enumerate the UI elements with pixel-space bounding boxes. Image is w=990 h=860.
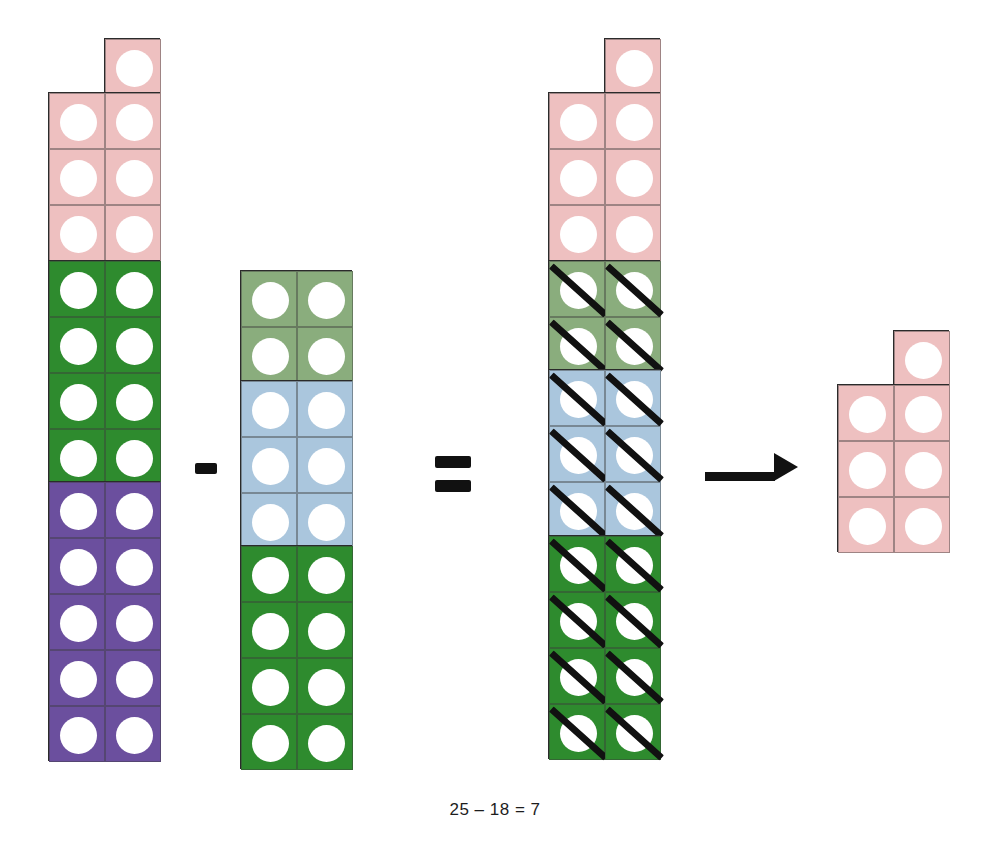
ten-frame-cell [894, 497, 950, 553]
counter-dot [252, 338, 289, 375]
counter-dot [116, 605, 153, 642]
ten-frame-cell [49, 538, 105, 594]
ten-frame-cell [605, 39, 661, 95]
counter-dot [849, 452, 886, 489]
ten-frame-cell [549, 370, 605, 426]
ten-frame-cell [105, 650, 161, 706]
block-outline [548, 369, 660, 537]
block-outline [548, 260, 660, 372]
counter-dot [308, 392, 345, 429]
counter-dot [308, 282, 345, 319]
ten-frame-cell [49, 93, 105, 149]
ten-frame-cell [241, 271, 297, 327]
ten-frame-cell [605, 592, 661, 648]
ten-frame-cell [549, 205, 605, 261]
ten-frame-cell [241, 714, 297, 770]
ten-frame-cell [105, 594, 161, 650]
ten-frame-cell [105, 706, 161, 762]
ten-frame-cell [49, 373, 105, 429]
ten-frame-cell [894, 441, 950, 497]
ten-frame-cell [894, 385, 950, 441]
ten-frame-cell [49, 429, 105, 485]
ten-frame-cell [838, 441, 894, 497]
ten-frame-cell [105, 482, 161, 538]
counter-dot [116, 272, 153, 309]
counter-dot [116, 661, 153, 698]
ten-frame-cell [838, 385, 894, 441]
ten-frame-cell [297, 493, 353, 549]
diagram-canvas: 25 – 18 = 7 [0, 0, 990, 860]
ten-frame-cell [105, 429, 161, 485]
counter-dot [116, 384, 153, 421]
ten-frame-cell [605, 93, 661, 149]
counter-dot [60, 605, 97, 642]
ten-frame-cell [838, 497, 894, 553]
ten-frame-cell [297, 714, 353, 770]
ten-frame-cell [297, 546, 353, 602]
ten-frame-cell [605, 370, 661, 426]
ten-frame-cell [549, 149, 605, 205]
ten-frame-cell [241, 437, 297, 493]
counter-dot [252, 669, 289, 706]
counter-dot [616, 104, 653, 141]
block-outline [48, 92, 160, 260]
block-outline [240, 380, 352, 548]
counter-dot [116, 216, 153, 253]
ten-frame-cell [605, 426, 661, 482]
counter-dot [616, 50, 653, 87]
counter-dot [308, 504, 345, 541]
notch-cell-outline [893, 330, 949, 386]
ten-frame-cell [297, 381, 353, 437]
counter-dot [116, 440, 153, 477]
counter-dot [116, 104, 153, 141]
block-outline [48, 481, 160, 761]
ten-frame-cell [297, 327, 353, 383]
counter-dot [60, 440, 97, 477]
counter-dot [560, 216, 597, 253]
ten-frame-cell [297, 602, 353, 658]
counter-dot [849, 508, 886, 545]
minus-sign [195, 463, 217, 474]
ten-frame-cell [549, 317, 605, 373]
ten-frame-cell [549, 704, 605, 760]
counter-dot [308, 669, 345, 706]
ten-frame-cell [549, 261, 605, 317]
ten-frame-cell [241, 546, 297, 602]
ten-frame-cell [297, 437, 353, 493]
ten-frame-cell [605, 149, 661, 205]
counter-dot [252, 392, 289, 429]
counter-dot [60, 216, 97, 253]
ten-frame-cell [105, 149, 161, 205]
ten-frame-cell [605, 205, 661, 261]
ten-frame-cell [241, 381, 297, 437]
ten-frame-cell [105, 538, 161, 594]
ten-frame-cell [549, 536, 605, 592]
block-outline [837, 384, 949, 552]
ten-frame-cell [49, 205, 105, 261]
counter-dot [252, 448, 289, 485]
counter-dot [905, 342, 942, 379]
counter-dot [252, 557, 289, 594]
counter-dot [60, 717, 97, 754]
counter-dot [252, 613, 289, 650]
ten-frame-cell [49, 650, 105, 706]
counter-dot [60, 493, 97, 530]
ten-frame-cell [549, 426, 605, 482]
notch-cell-outline [604, 38, 660, 94]
counter-dot [60, 549, 97, 586]
counter-dot [60, 384, 97, 421]
ten-frame-cell [49, 482, 105, 538]
counter-dot [116, 160, 153, 197]
ten-frame-cell [297, 271, 353, 327]
ten-frame-cell [605, 704, 661, 760]
counter-dot [560, 160, 597, 197]
counter-dot [60, 104, 97, 141]
ten-frame-cell [241, 602, 297, 658]
ten-frame-cell [105, 261, 161, 317]
ten-frame-cell [549, 93, 605, 149]
counter-dot [116, 549, 153, 586]
counter-dot [905, 508, 942, 545]
block-outline [240, 545, 352, 769]
ten-frame-cell [241, 658, 297, 714]
block-outline [548, 92, 660, 260]
